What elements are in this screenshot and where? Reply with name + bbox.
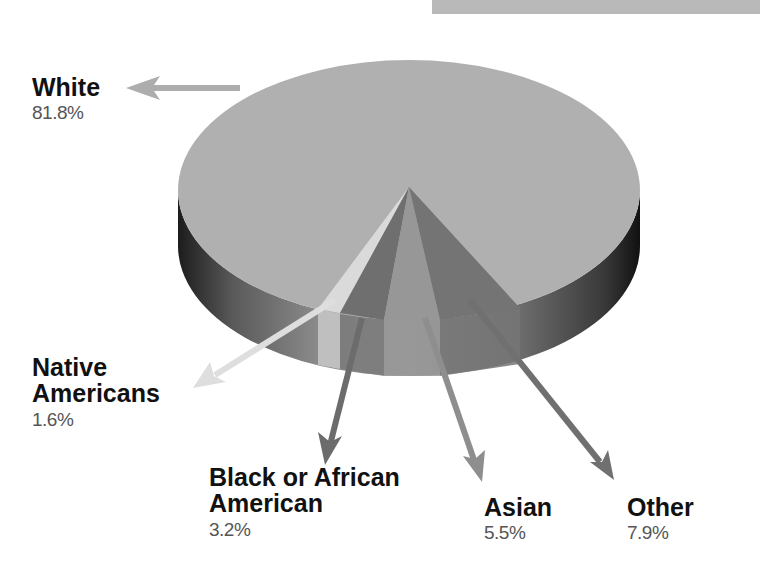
label-other-pct: 7.9% (627, 523, 694, 543)
label-asian: Asian 5.5% (484, 494, 552, 543)
label-other-name: Other (627, 494, 694, 520)
label-native-pct: 1.6% (32, 410, 160, 430)
label-black-name-1: Black or African (209, 464, 400, 490)
label-black-pct: 3.2% (209, 520, 400, 540)
label-asian-pct: 5.5% (484, 523, 552, 543)
label-black: Black or African American 3.2% (209, 464, 400, 539)
label-white: White 81.8% (32, 74, 100, 123)
label-white-pct: 81.8% (32, 103, 100, 123)
label-white-name: White (32, 74, 100, 100)
arrow-white (126, 76, 240, 100)
label-asian-name: Asian (484, 494, 552, 520)
label-native-name-2: Americans (32, 380, 160, 406)
label-other: Other 7.9% (627, 494, 694, 543)
label-native-name-1: Native (32, 354, 160, 380)
label-native-americans: Native Americans 1.6% (32, 354, 160, 429)
label-black-name-2: American (209, 490, 400, 516)
